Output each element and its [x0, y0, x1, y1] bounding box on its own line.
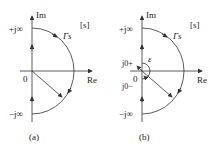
plane-label: [s]	[80, 20, 90, 30]
contour-label: Γs	[62, 31, 72, 41]
epsilon-arc-arrow	[144, 76, 146, 78]
j0-plus-label: j0+	[121, 59, 133, 68]
minus-j-inf-label: −j∞	[119, 109, 133, 119]
caption-b: (b)	[139, 132, 150, 142]
caption-a: (a)	[29, 132, 39, 142]
arc-arrow-bottom	[178, 88, 181, 93]
re-label: Re	[197, 75, 207, 85]
re-label: Re	[87, 75, 97, 85]
radius-vector	[32, 71, 62, 97]
im-label: Im	[146, 10, 156, 20]
epsilon-radius	[137, 66, 142, 71]
arc-arrow-bottom	[68, 88, 71, 93]
panel-b: Im Re [s] Γs +j∞ −j∞ 0 j0+ j0− ε (b)	[119, 10, 207, 142]
radius-vector	[142, 71, 172, 97]
minus-j-inf-label: −j∞	[9, 109, 23, 119]
plus-j-inf-label: +j∞	[9, 24, 23, 34]
plane-label: [s]	[190, 20, 200, 30]
contour-label: Γs	[172, 31, 182, 41]
origin-label: 0	[133, 74, 138, 84]
im-label: Im	[36, 10, 46, 20]
plus-j-inf-label: +j∞	[119, 24, 133, 34]
panel-a: Im Re [s] Γs +j∞ −j∞ 0 (a)	[9, 10, 97, 142]
j0-minus-label: j0−	[121, 82, 133, 91]
epsilon-label: ε	[148, 54, 152, 64]
origin-label: 0	[23, 74, 28, 84]
nyquist-contour-diagram: Im Re [s] Γs +j∞ −j∞ 0 (a) Im Re [s] Γs …	[0, 0, 220, 150]
